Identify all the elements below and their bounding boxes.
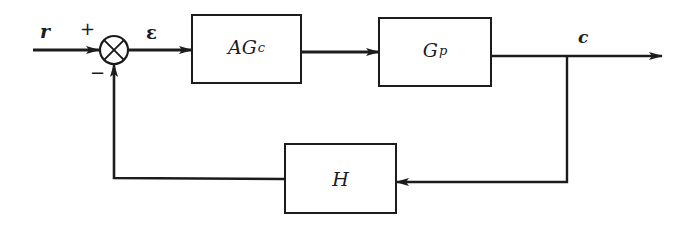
minus-sign: − (90, 64, 105, 82)
controller-block-label: AGc (192, 15, 301, 79)
controller-subscript: c (258, 40, 265, 55)
plant-subscript: p (439, 43, 447, 58)
summing-junction (100, 36, 128, 64)
plant-block-label: Gp (379, 18, 491, 82)
reference-signal-label: r (40, 22, 50, 41)
plus-sign: + (80, 20, 95, 38)
feedback-block-label: H (285, 144, 396, 213)
feedback-gain-text: H (332, 168, 349, 190)
error-signal-label: ε (146, 24, 157, 42)
block-diagram: r + − ε c AGc Gp H (0, 0, 693, 232)
output-signal-label: c (578, 29, 588, 46)
controller-gain-text: AG (228, 36, 257, 58)
plant-gain-text: G (423, 39, 438, 61)
